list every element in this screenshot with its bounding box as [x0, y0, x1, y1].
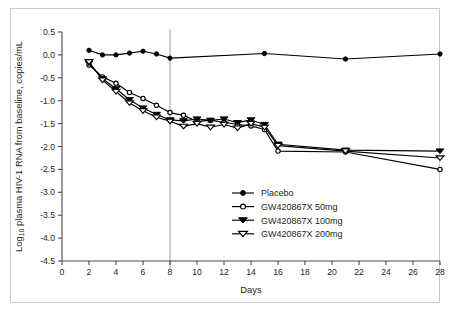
- data-point: [141, 96, 145, 100]
- legend-item-1: GW420867X 50mg: [232, 202, 338, 212]
- y-axis-tick-label: -4.5: [40, 256, 55, 266]
- data-point: [276, 149, 280, 153]
- data-point: [166, 119, 174, 124]
- x-axis-tick-label: 2: [87, 267, 92, 277]
- data-point: [181, 113, 185, 117]
- y-axis-tick-label: -1.0: [40, 96, 55, 106]
- axis-layer: 0.50.0-0.5-1.0-1.5-2.0-2.5-3.0-3.5-4.0-4…: [40, 27, 445, 277]
- y-axis-tick-label: -2.5: [40, 164, 55, 174]
- data-point: [154, 52, 158, 56]
- data-point: [114, 81, 118, 85]
- y-axis-title-prefix: Log: [13, 236, 24, 252]
- y-axis-tick-label: -3.5: [40, 210, 55, 220]
- data-point: [153, 115, 161, 120]
- legend-item-0: Placebo: [232, 188, 294, 198]
- data-point: [343, 57, 347, 61]
- data-point: [168, 110, 172, 114]
- data-point: [87, 48, 91, 52]
- series-0: [87, 48, 442, 61]
- figure-root: 0.50.0-0.5-1.0-1.5-2.0-2.5-3.0-3.5-4.0-4…: [0, 0, 452, 320]
- x-axis-tick-label: 10: [192, 267, 202, 277]
- data-layer: [85, 48, 444, 171]
- y-axis-title-rest: plasma HIV-1 RNA from baseline, copies/m…: [13, 41, 24, 229]
- chart-svg: 0.50.0-0.5-1.0-1.5-2.0-2.5-3.0-3.5-4.0-4…: [0, 0, 452, 320]
- x-axis-tick-label: 20: [327, 267, 337, 277]
- x-axis-tick-label: 6: [141, 267, 146, 277]
- legend-marker: [241, 191, 246, 196]
- y-axis-tick-label: 0.5: [43, 27, 55, 37]
- x-axis-tick-label: 16: [273, 267, 283, 277]
- data-point: [100, 53, 104, 57]
- y-axis-tick-label: 0.0: [43, 50, 55, 60]
- x-axis-tick-label: 12: [219, 267, 229, 277]
- series-1: [87, 63, 442, 172]
- x-axis-tick-label: 28: [435, 267, 445, 277]
- legend-label: GW420867X 50mg: [261, 202, 338, 212]
- y-axis-tick-label: -2.0: [40, 142, 55, 152]
- legend-label: Placebo: [261, 188, 294, 198]
- legend-marker: [241, 204, 246, 209]
- y-axis-title: Log10 plasma HIV-1 RNA from baseline, co…: [13, 41, 25, 252]
- y-axis-tick-label: -1.5: [40, 119, 55, 129]
- chart-canvas: 0.50.0-0.5-1.0-1.5-2.0-2.5-3.0-3.5-4.0-4…: [0, 0, 452, 320]
- y-axis-title-subscript: 10: [18, 228, 25, 236]
- x-axis-title: Days: [240, 284, 262, 295]
- legend-item-3: GW420867X 200mg: [232, 229, 343, 239]
- data-point: [168, 56, 172, 60]
- data-point: [438, 167, 442, 171]
- data-point: [127, 51, 131, 55]
- x-axis-tick-label: 0: [60, 267, 65, 277]
- x-axis-tick-label: 26: [408, 267, 418, 277]
- series-3: [85, 60, 444, 161]
- x-axis-tick-label: 14: [246, 267, 256, 277]
- x-axis-tick-label: 8: [168, 267, 173, 277]
- legend-item-2: GW420867X 100mg: [232, 216, 343, 226]
- data-point: [207, 125, 215, 130]
- x-axis-tick-label: 18: [300, 267, 310, 277]
- y-axis-tick-label: -4.0: [40, 233, 55, 243]
- x-axis-tick-label: 22: [354, 267, 364, 277]
- data-point: [127, 90, 131, 94]
- x-axis-tick-label: 24: [381, 267, 391, 277]
- legend-layer: PlaceboGW420867X 50mgGW420867X 100mgGW42…: [232, 188, 343, 239]
- data-point: [154, 103, 158, 107]
- legend-label: GW420867X 100mg: [261, 216, 343, 226]
- series-2: [85, 61, 444, 154]
- data-point: [141, 49, 145, 53]
- y-axis-tick-label: -0.5: [40, 73, 55, 83]
- data-point: [262, 51, 266, 55]
- data-point: [114, 53, 118, 57]
- data-point: [180, 124, 188, 129]
- data-point: [438, 52, 442, 56]
- y-axis-tick-label: -3.0: [40, 187, 55, 197]
- legend-label: GW420867X 200mg: [261, 229, 343, 239]
- data-point: [234, 126, 242, 131]
- x-axis-tick-label: 4: [114, 267, 119, 277]
